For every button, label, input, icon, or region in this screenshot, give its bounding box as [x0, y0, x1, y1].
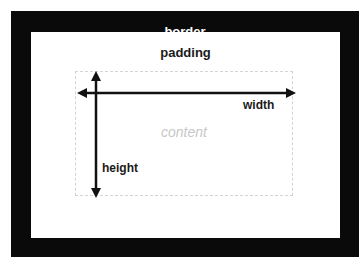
padding-label: padding	[31, 45, 340, 60]
width-label: width	[243, 98, 274, 112]
content-label: content	[75, 124, 293, 140]
height-label: height	[102, 161, 138, 175]
